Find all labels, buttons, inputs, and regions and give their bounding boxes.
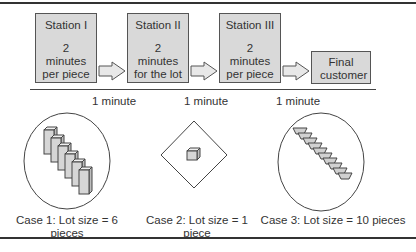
- station-3-title: Station III: [220, 19, 280, 32]
- station-1-title: Station I: [36, 19, 96, 32]
- station-3-box: Station III 2 minutes per piece: [219, 13, 281, 83]
- case-2-caption: Case 2: Lot size = 1 piece: [143, 214, 251, 240]
- final-customer-title: Final customer: [312, 56, 370, 82]
- final-customer-box: Final customer: [311, 51, 371, 84]
- case-1-caption: Case 1: Lot size = 6 pieces: [0, 214, 134, 240]
- station-3-desc: 2 minutes per piece: [220, 42, 280, 81]
- top-border: [0, 2, 416, 4]
- transfer-time-2: 1 minute: [184, 95, 228, 107]
- arrow-right-icon: [282, 61, 310, 81]
- station-2-desc: 2 minutes for the lot: [128, 42, 188, 81]
- case-3-lot-illustration: [276, 112, 366, 214]
- station-2-box: Station II 2 minutes for the lot: [127, 13, 189, 83]
- case-1-lot-illustration: [22, 112, 112, 212]
- station-1-desc: 2 minutes per piece: [36, 42, 96, 81]
- timeline-divider: [30, 89, 376, 90]
- case-3-caption: Case 3: Lot size = 10 pieces: [250, 214, 416, 227]
- arrow-right-icon: [98, 61, 126, 81]
- case-2-lot-illustration: [160, 121, 228, 189]
- arrow-right-icon: [190, 61, 218, 81]
- station-2-title: Station II: [128, 19, 188, 32]
- transfer-time-3: 1 minute: [276, 95, 320, 107]
- station-1-box: Station I 2 minutes per piece: [35, 13, 97, 83]
- transfer-time-1: 1 minute: [92, 95, 136, 107]
